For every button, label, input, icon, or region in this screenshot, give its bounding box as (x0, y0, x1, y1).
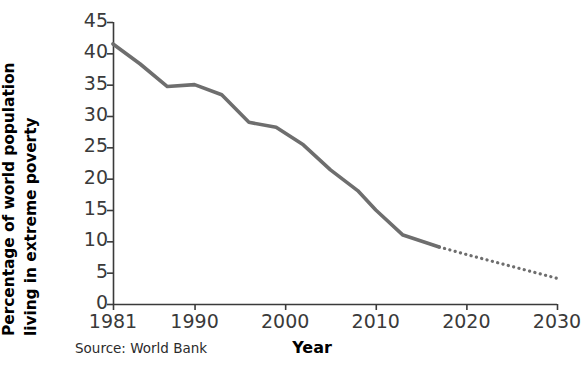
source-note: Source: World Bank (75, 340, 207, 356)
x-axis-tick-labels: 198119902000201020202030 (0, 306, 578, 336)
data-series-layer (113, 44, 557, 278)
x-axis-tick-label: 2000 (261, 310, 309, 332)
y-axis-ticks (107, 23, 113, 305)
x-axis-tick-label: 2030 (533, 310, 581, 332)
x-axis-tick-label: 2020 (442, 310, 490, 332)
x-axis-tick-label: 2010 (352, 310, 400, 332)
x-axis-tick-label: 1981 (89, 310, 137, 332)
data-line-projection (439, 247, 557, 278)
x-axis-tick-label: 1990 (170, 310, 218, 332)
data-line-historical (113, 44, 439, 247)
axis-lines (113, 22, 557, 305)
